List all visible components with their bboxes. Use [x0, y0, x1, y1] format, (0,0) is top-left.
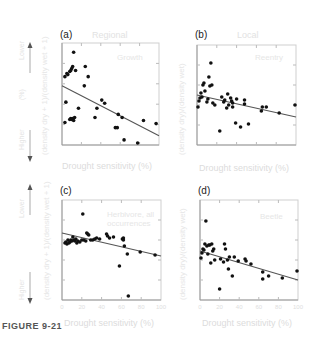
data-point — [281, 276, 285, 280]
data-point — [261, 270, 265, 274]
data-point — [227, 267, 231, 271]
panel-c: (c) Herbivore, all occurrences 020406080… — [62, 200, 161, 300]
data-point — [231, 274, 235, 278]
data-point — [243, 98, 247, 102]
data-point — [63, 75, 67, 79]
data-point — [213, 258, 217, 262]
data-point — [142, 119, 146, 123]
x-tick-label: 60 — [118, 304, 125, 310]
data-point — [202, 81, 206, 85]
data-point — [223, 98, 227, 102]
side-label-bottom-2: Higher — [18, 279, 25, 300]
data-point — [200, 251, 204, 255]
data-point — [233, 255, 237, 259]
data-point — [265, 105, 269, 109]
data-point — [249, 262, 253, 266]
plot-frame — [197, 45, 296, 145]
panel-a: (a) Regional Growth (density dry + 1)/(d… — [62, 43, 159, 145]
data-point — [126, 252, 130, 256]
data-point — [228, 255, 232, 259]
data-point — [209, 61, 213, 65]
data-point — [235, 97, 239, 101]
scatter-plot: 020406080100 — [200, 200, 298, 300]
side-label-top-2: Lower — [18, 199, 25, 218]
panel-label: (c) — [60, 185, 72, 196]
up-arrow-icon-a — [25, 40, 35, 170]
figure-caption: FIGURE 9-21 — [2, 321, 62, 331]
scatter-plot — [62, 43, 159, 145]
data-point — [220, 95, 224, 99]
data-point — [72, 50, 76, 54]
data-point — [212, 247, 216, 251]
y-axis-label: (density dry)/(density wet) — [177, 63, 186, 155]
data-point — [74, 69, 78, 73]
data-point — [83, 65, 87, 69]
data-point — [206, 97, 210, 101]
side-label-top: Lower — [18, 41, 25, 60]
data-point — [227, 103, 231, 107]
data-point — [200, 95, 204, 99]
data-point — [210, 242, 214, 246]
data-point — [123, 244, 127, 248]
data-point — [84, 239, 88, 243]
data-point — [260, 109, 264, 113]
data-point — [202, 248, 206, 252]
data-point — [223, 242, 227, 246]
data-point — [210, 83, 214, 87]
data-point — [93, 116, 97, 120]
trend-line — [197, 95, 296, 117]
x-tick-label: 0 — [60, 304, 64, 310]
data-point — [213, 103, 217, 107]
data-point — [136, 141, 140, 145]
data-point — [225, 106, 229, 110]
data-point — [267, 274, 271, 278]
x-tick-label: 20 — [216, 304, 223, 310]
side-label-middle: (%) — [18, 89, 25, 100]
data-point — [95, 106, 99, 110]
data-point — [112, 235, 116, 239]
data-point — [116, 113, 120, 117]
data-point — [122, 236, 126, 240]
x-axis-label: Drought sensitivity (%) — [202, 318, 292, 328]
panel-label: (d) — [198, 185, 210, 196]
data-point — [127, 294, 131, 298]
data-point — [108, 236, 112, 240]
data-point — [236, 259, 240, 263]
x-tick-label: 0 — [198, 304, 202, 310]
x-tick-label: 80 — [275, 304, 282, 310]
data-point — [77, 106, 81, 110]
x-axis-label: Drought sensitivity (%) — [64, 318, 154, 328]
data-point — [122, 138, 126, 142]
trend-line — [62, 86, 159, 136]
side-label-bottom: Higher — [18, 129, 25, 150]
data-point — [199, 256, 203, 260]
data-point — [218, 287, 222, 291]
data-point — [203, 89, 207, 93]
data-point — [234, 121, 238, 125]
data-point — [239, 125, 243, 129]
panel-title: Local — [237, 30, 259, 40]
data-point — [83, 84, 87, 88]
data-point — [295, 269, 299, 273]
panel-label: (a) — [60, 29, 72, 40]
data-point — [247, 122, 251, 126]
data-point — [219, 257, 223, 261]
trend-line — [200, 251, 298, 280]
data-point — [199, 91, 203, 95]
data-point — [204, 219, 208, 223]
y-axis-label: (density dry + 1)/(density wet + 1) — [40, 36, 49, 155]
data-point — [209, 261, 213, 265]
data-point — [66, 73, 70, 77]
data-point — [244, 259, 248, 263]
data-point — [224, 247, 228, 251]
plot-frame — [62, 43, 159, 145]
x-tick-label: 60 — [255, 304, 262, 310]
data-point — [64, 100, 68, 104]
x-tick-label: 80 — [138, 304, 145, 310]
data-point — [71, 65, 75, 69]
data-point — [153, 253, 157, 257]
x-axis-label: Drought sensitivity (%) — [199, 163, 289, 173]
data-point — [81, 212, 85, 216]
data-point — [293, 103, 297, 107]
data-point — [118, 264, 122, 268]
